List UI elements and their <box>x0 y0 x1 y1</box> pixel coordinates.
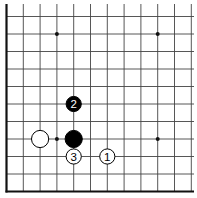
star-point-icon <box>156 137 160 141</box>
white-stone <box>31 130 48 147</box>
board-grid <box>6 4 195 193</box>
move-1: 1 <box>100 149 115 164</box>
stones: 123 <box>31 96 114 164</box>
star-point-icon <box>55 32 59 36</box>
move-2: 2 <box>66 96 81 111</box>
move-number-label: 3 <box>70 151 76 163</box>
black-stone <box>65 130 82 147</box>
white-stone-icon <box>31 130 48 147</box>
move-number-label: 2 <box>70 98 76 110</box>
move-number-label: 1 <box>104 151 110 163</box>
star-point-icon <box>156 32 160 36</box>
black-stone-icon <box>65 130 82 147</box>
star-point-icon <box>55 137 59 141</box>
go-board: 123 <box>0 0 197 198</box>
move-3: 3 <box>66 149 81 164</box>
